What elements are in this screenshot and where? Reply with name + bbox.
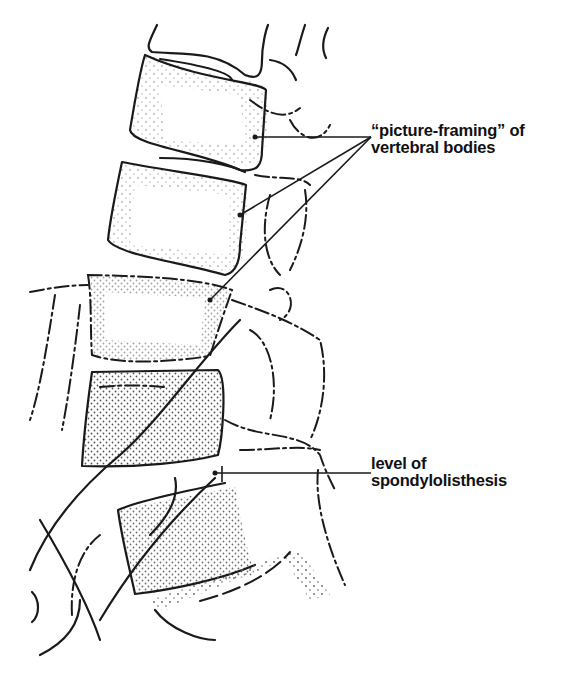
annotation-spondylolisthesis-line2: spondylolisthesis: [371, 472, 507, 489]
vertebral-body-4: [82, 370, 223, 466]
annotation-picture-framing-line1: “picture-framing” of: [371, 122, 525, 139]
vertebral-body-1: [130, 55, 267, 172]
vertebral-body-2: [108, 162, 248, 275]
spine-illustration: [0, 0, 569, 678]
annotation-spondylolisthesis: level of spondylolisthesis: [371, 455, 507, 489]
annotation-spondylolisthesis-line1: level of: [371, 455, 507, 472]
annotation-picture-framing-line2: vertebral bodies: [371, 139, 525, 156]
posterior-elements: [225, 100, 345, 585]
annotation-picture-framing: “picture-framing” of vertebral bodies: [371, 122, 525, 156]
sacrum: [118, 483, 330, 640]
